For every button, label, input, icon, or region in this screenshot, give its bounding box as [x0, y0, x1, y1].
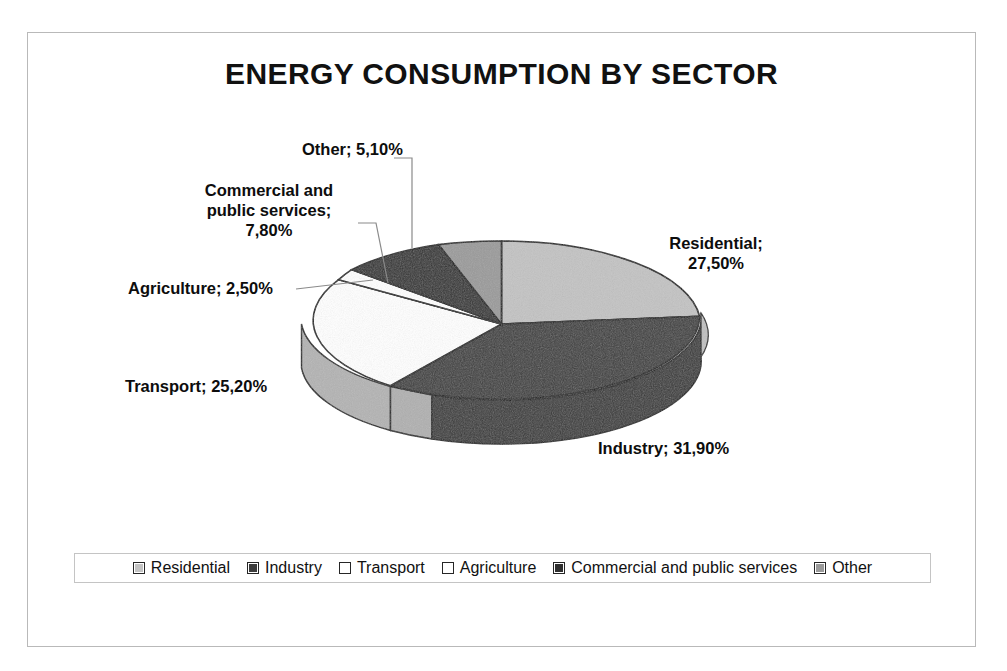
legend-item-commercial[interactable]: Commercial and public services — [553, 559, 797, 577]
legend-swatch-other — [814, 562, 826, 574]
data-label-commercial-line3: 7,80% — [165, 220, 373, 240]
data-label-other: Other; 5,10% — [302, 139, 403, 159]
data-label-commercial-line2: public services; — [165, 200, 373, 220]
legend-item-residential[interactable]: Residential — [133, 559, 230, 577]
legend-label-industry: Industry — [265, 559, 322, 577]
legend-label-transport: Transport — [357, 559, 425, 577]
data-label-industry: Industry; 31,90% — [598, 438, 729, 458]
legend-label-commercial: Commercial and public services — [571, 559, 797, 577]
data-label-agriculture: Agriculture; 2,50% — [128, 278, 273, 298]
legend-swatch-industry — [247, 562, 259, 574]
data-label-residential: Residential; 27,50% — [626, 233, 806, 273]
legend-swatch-agriculture — [442, 562, 454, 574]
data-label-commercial: Commercial and public services; 7,80% — [165, 180, 373, 240]
legend-label-agriculture: Agriculture — [460, 559, 536, 577]
leader-line-other — [394, 158, 412, 248]
legend-item-transport[interactable]: Transport — [339, 559, 425, 577]
legend-swatch-residential — [133, 562, 145, 574]
data-label-commercial-line1: Commercial and — [165, 180, 373, 200]
legend-label-other: Other — [832, 559, 872, 577]
data-label-residential-line1: Residential; — [626, 233, 806, 253]
legend-label-residential: Residential — [151, 559, 230, 577]
legend-swatch-commercial — [553, 562, 565, 574]
legend-item-other[interactable]: Other — [814, 559, 872, 577]
data-label-residential-line2: 27,50% — [626, 253, 806, 273]
legend-item-agriculture[interactable]: Agriculture — [442, 559, 536, 577]
chart-frame: ENERGY CONSUMPTION BY SECTOR — [27, 32, 976, 647]
data-label-transport: Transport; 25,20% — [125, 376, 267, 396]
legend-item-industry[interactable]: Industry — [247, 559, 322, 577]
legend-swatch-transport — [339, 562, 351, 574]
chart-legend: Residential Industry Transport Agricultu… — [74, 553, 931, 583]
